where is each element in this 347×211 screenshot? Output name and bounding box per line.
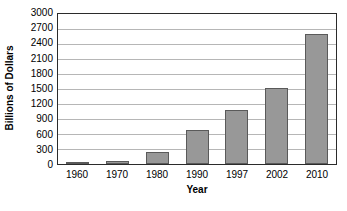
x-tick-label: 1960: [57, 167, 97, 183]
x-tick-label: 1990: [177, 167, 217, 183]
y-tick-label: 2700: [31, 23, 53, 33]
y-axis-tick-labels: 0 300 600 900 1200 1500 1800 2100 2400 2…: [18, 13, 57, 165]
y-tick-label: 900: [36, 114, 53, 124]
x-axis-tick-labels: 1960 1970 1980 1990 1997 2002 2010: [57, 167, 337, 183]
bar-slot: [177, 14, 217, 164]
x-tick-label: 1970: [97, 167, 137, 183]
bar-slot: [137, 14, 177, 164]
y-tick-label: 1800: [31, 69, 53, 79]
y-tick-label: 3000: [31, 8, 53, 18]
bar-2010: [305, 34, 328, 164]
bar-1980: [146, 152, 169, 164]
y-tick-label: 2100: [31, 54, 53, 64]
x-tick-label: 1997: [217, 167, 257, 183]
bar-1990: [186, 130, 209, 165]
bar-2002: [265, 88, 288, 165]
bar-slot: [296, 14, 336, 164]
bar-1997: [225, 110, 248, 164]
y-tick-label: 300: [36, 145, 53, 155]
bar-slot: [58, 14, 98, 164]
bar-slot: [257, 14, 297, 164]
y-axis-title-label: Billions of Dollars: [4, 45, 14, 130]
bars-layer: [58, 14, 336, 164]
bar-slot: [98, 14, 138, 164]
plot-area: [57, 13, 337, 165]
bar-1970: [106, 161, 129, 165]
y-tick-label: 2400: [31, 38, 53, 48]
bar-slot: [217, 14, 257, 164]
y-tick-label: 600: [36, 130, 53, 140]
y-tick-label: 1500: [31, 84, 53, 94]
x-tick-label: 1980: [137, 167, 177, 183]
bar-1960: [66, 162, 89, 164]
x-axis-title: Year: [57, 184, 337, 196]
x-tick-label: 2002: [257, 167, 297, 183]
bar-chart: Billions of Dollars 0 300 600 900 1200 1…: [0, 0, 347, 211]
y-tick-label: 1200: [31, 99, 53, 109]
y-tick-label: 0: [47, 160, 53, 170]
x-tick-label: 2010: [297, 167, 337, 183]
y-axis-title: Billions of Dollars: [0, 0, 18, 175]
